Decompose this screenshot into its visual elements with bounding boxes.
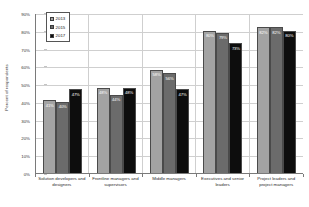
- x-tick-mark: [142, 174, 143, 177]
- x-tick-mark: [196, 174, 197, 177]
- bar-value-label: 41%: [44, 103, 55, 108]
- bar[interactable]: 82%: [257, 27, 270, 173]
- x-axis-labels: Solution developers and designersFrontli…: [35, 176, 303, 187]
- bar[interactable]: 82%: [270, 27, 283, 173]
- bar-value-label: 82%: [258, 30, 269, 35]
- bar-value-label: 73%: [230, 46, 241, 51]
- bar-value-label: 56%: [164, 76, 175, 81]
- bar-value-label: 47%: [177, 92, 188, 97]
- bar-value-label: 80%: [284, 33, 295, 38]
- y-tick-label: 20%: [21, 136, 30, 141]
- y-axis-title-text: Percent of respondents: [4, 64, 9, 111]
- bar[interactable]: 48%: [97, 88, 110, 173]
- bar[interactable]: 47%: [176, 89, 189, 173]
- x-axis-label: Project leaders and project managers: [249, 176, 303, 187]
- bar[interactable]: 58%: [150, 70, 163, 173]
- plot-area: 41%40%47%48%44%48%58%56%47%80%79%73%82%8…: [35, 14, 303, 174]
- y-tick-label: 80%: [21, 29, 30, 34]
- legend-swatch-icon: [50, 25, 54, 29]
- legend-label: 2015: [56, 25, 66, 30]
- y-axis-ticks: 0%10%20%30%40%50%60%70%80%90%: [12, 14, 32, 174]
- x-axis-label: Frontline managers and supervisors: [89, 176, 143, 187]
- bar[interactable]: 80%: [203, 31, 216, 173]
- x-tick-mark: [249, 174, 250, 177]
- bar-value-label: 44%: [111, 97, 122, 102]
- legend-label: 2013: [56, 16, 66, 21]
- bar[interactable]: 41%: [43, 100, 56, 173]
- bar-group: 80%79%73%: [196, 14, 249, 173]
- legend-label: 2017: [56, 33, 66, 38]
- y-tick-label: 30%: [21, 118, 30, 123]
- x-tick-mark: [35, 174, 36, 177]
- bar-value-label: 79%: [217, 35, 228, 40]
- bar[interactable]: 80%: [283, 31, 296, 173]
- legend-item[interactable]: 2017: [50, 33, 65, 38]
- bar[interactable]: 44%: [110, 95, 123, 173]
- bar-value-label: 47%: [70, 92, 81, 97]
- bar[interactable]: 47%: [69, 89, 82, 173]
- bar-value-label: 48%: [98, 90, 109, 95]
- y-axis-title: Percent of respondents: [0, 0, 12, 175]
- x-axis-label: Executives and senior leaders: [196, 176, 250, 187]
- bar[interactable]: 79%: [216, 33, 229, 173]
- legend-item[interactable]: 2015: [50, 25, 65, 30]
- bar-value-label: 82%: [271, 30, 282, 35]
- y-tick-label: 10%: [21, 154, 30, 159]
- bar-group: 82%82%80%: [250, 14, 303, 173]
- bar[interactable]: 73%: [229, 43, 242, 173]
- bar-chart: Percent of respondents 0%10%20%30%40%50%…: [0, 0, 309, 207]
- legend-swatch-icon: [50, 17, 54, 21]
- y-tick-label: 70%: [21, 47, 30, 52]
- y-tick-label: 0%: [24, 172, 30, 177]
- bar-groups: 41%40%47%48%44%48%58%56%47%80%79%73%82%8…: [36, 14, 303, 173]
- bar[interactable]: 56%: [163, 73, 176, 173]
- legend-swatch-icon: [50, 34, 54, 38]
- bar[interactable]: 48%: [123, 88, 136, 173]
- legend: 201320152017: [46, 12, 70, 42]
- y-tick-label: 40%: [21, 100, 30, 105]
- x-axis-label: Solution developers and designers: [35, 176, 89, 187]
- legend-item[interactable]: 2013: [50, 16, 65, 21]
- x-axis-label: Middle managers: [142, 176, 196, 187]
- bar-group: 48%44%48%: [89, 14, 142, 173]
- x-tick-mark: [89, 174, 90, 177]
- bar-value-label: 58%: [151, 72, 162, 77]
- y-tick-label: 90%: [21, 12, 30, 17]
- y-tick-label: 50%: [21, 83, 30, 88]
- bar-value-label: 48%: [124, 90, 135, 95]
- x-tick-mark: [303, 174, 304, 177]
- bar[interactable]: 40%: [56, 102, 69, 173]
- bar-group: 58%56%47%: [143, 14, 196, 173]
- bar-value-label: 80%: [204, 33, 215, 38]
- bar-value-label: 40%: [57, 104, 68, 109]
- y-tick-label: 60%: [21, 65, 30, 70]
